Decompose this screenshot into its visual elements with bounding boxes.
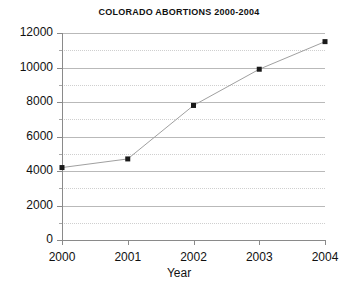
x-axis-label: 2002 xyxy=(164,250,224,264)
gridline-minor xyxy=(62,154,325,155)
y-axis-tick xyxy=(57,137,62,138)
x-axis-tick xyxy=(259,240,260,245)
gridline-major xyxy=(62,68,325,69)
x-axis-title: Year xyxy=(0,266,358,280)
y-axis-label: 6000 xyxy=(1,129,53,143)
y-axis-label: 10000 xyxy=(1,60,53,74)
x-axis-tick xyxy=(325,240,326,245)
gridline-major xyxy=(62,102,325,103)
y-axis-label: 12000 xyxy=(1,25,53,39)
y-axis-tick-minor xyxy=(59,154,62,155)
gridline-major xyxy=(62,171,325,172)
chart-title: COLORADO ABORTIONS 2000-2004 xyxy=(0,7,358,17)
y-axis-tick xyxy=(57,206,62,207)
y-axis-tick xyxy=(57,68,62,69)
x-axis-label: 2004 xyxy=(295,250,355,264)
y-axis-tick-minor xyxy=(59,223,62,224)
gridline-major xyxy=(62,33,325,34)
x-axis-label: 2003 xyxy=(229,250,289,264)
x-axis-tick xyxy=(128,240,129,245)
x-axis-label: 2000 xyxy=(32,250,92,264)
y-axis-tick-minor xyxy=(59,85,62,86)
y-axis-label: 4000 xyxy=(1,163,53,177)
gridline-minor xyxy=(62,188,325,189)
y-axis-tick-minor xyxy=(59,188,62,189)
y-axis-tick xyxy=(57,171,62,172)
chart-container: COLORADO ABORTIONS 2000-2004 Year 020004… xyxy=(0,0,358,295)
x-axis-tick xyxy=(194,240,195,245)
y-axis-tick-minor xyxy=(59,119,62,120)
gridline-minor xyxy=(62,85,325,86)
x-axis-tick xyxy=(62,240,63,245)
y-axis-tick xyxy=(57,33,62,34)
y-axis-tick xyxy=(57,102,62,103)
y-axis-spine xyxy=(62,33,63,241)
y-axis-tick-minor xyxy=(59,50,62,51)
y-axis-label: 8000 xyxy=(1,94,53,108)
y-axis-label: 2000 xyxy=(1,198,53,212)
x-axis-label: 2001 xyxy=(98,250,158,264)
gridline-minor xyxy=(62,119,325,120)
gridline-major xyxy=(62,137,325,138)
gridline-major xyxy=(62,206,325,207)
gridline-minor xyxy=(62,223,325,224)
gridline-minor xyxy=(62,50,325,51)
y-axis-label: 0 xyxy=(1,232,53,246)
plot-area xyxy=(62,33,325,240)
